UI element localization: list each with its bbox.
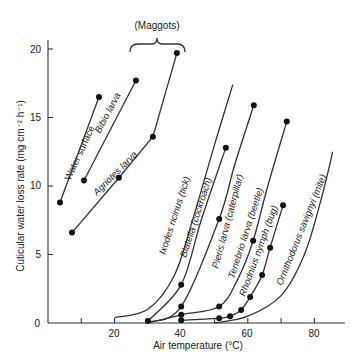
- data-point-rhodnius-nymph-bug: [280, 202, 286, 208]
- data-point-blatella-cockroach: [223, 145, 229, 151]
- data-point-rhodnius-nymph-bug: [178, 317, 184, 323]
- y-ticks: [48, 49, 53, 255]
- data-point-rhodnius-nymph-bug: [259, 272, 265, 278]
- y-axis-title: Cuticular water loss rate (mg cm⁻² h⁻¹): [15, 100, 26, 272]
- data-point-tenebrio-larva-beetle: [178, 312, 184, 318]
- data-point-rhodnius-nymph-bug: [247, 294, 253, 300]
- chart-svg: 0 5 10 15 20 20 40 60 80 Air temperature…: [0, 0, 353, 364]
- y-tick-label-5: 5: [35, 249, 41, 260]
- data-point-pieris-larva-caterpillar: [251, 102, 257, 108]
- x-tick-label-40: 40: [174, 328, 186, 339]
- data-point-bibio-larva: [133, 78, 139, 84]
- data-point-water-surface: [57, 199, 63, 205]
- maggots-brace: [130, 38, 185, 52]
- x-axis-title: Air temperature (°C): [153, 340, 243, 351]
- data-point-rhodnius-nymph-bug: [227, 313, 233, 319]
- data-point-agriotes-larva: [150, 134, 156, 140]
- label-ornithodorus: Ornithodorus savignyi (mite): [274, 172, 329, 286]
- data-point-rhodnius-nymph-bug: [216, 315, 222, 321]
- x-tick-label-80: 80: [308, 328, 320, 339]
- data-point-blatella-cockroach: [145, 318, 151, 324]
- data-point-rhodnius-nymph-bug: [267, 245, 273, 251]
- data-point-pieris-larva-caterpillar: [178, 304, 184, 310]
- y-tick-label-15: 15: [30, 112, 42, 123]
- x-tick-label-60: 60: [241, 328, 253, 339]
- x-ticks: [81, 318, 314, 323]
- data-point-agriotes-larva: [69, 230, 75, 236]
- data-point-tenebrio-larva-beetle: [284, 119, 290, 125]
- data-point-rhodnius-nymph-bug: [238, 307, 244, 313]
- maggots-label: (Maggots): [134, 20, 179, 31]
- y-tick-label-10: 10: [30, 180, 42, 191]
- data-point-agriotes-larva: [174, 50, 180, 56]
- y-tick-label-20: 20: [30, 44, 42, 55]
- data-point-bibio-larva: [81, 178, 87, 184]
- data-point-blatella-cockroach: [178, 282, 184, 288]
- chart-figure: 0 5 10 15 20 20 40 60 80 Air temperature…: [0, 0, 353, 364]
- x-tick-label-20: 20: [108, 328, 120, 339]
- y-tick-label-0: 0: [34, 318, 40, 329]
- data-point-tenebrio-larva-beetle: [216, 304, 222, 310]
- data-point-water-surface: [96, 94, 102, 100]
- label-water-surface: Water surface: [62, 124, 97, 182]
